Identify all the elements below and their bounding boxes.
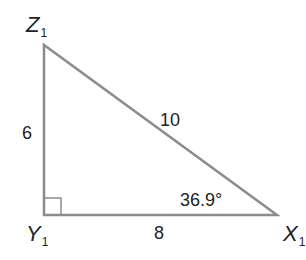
side-label-zx: 10 [160,111,180,129]
angle-label-x: 36.9° [180,191,222,209]
side-label-yx: 8 [154,224,164,242]
vertex-z-letter: Z [26,12,39,37]
vertex-y-subscript: 1 [42,235,49,249]
right-angle-marker [44,198,61,215]
vertex-x-subscript: 1 [299,235,306,249]
vertex-label-y: Y1 [26,223,48,248]
vertex-z-subscript: 1 [40,26,47,40]
vertex-label-z: Z1 [26,14,47,39]
triangle-outline [44,45,277,215]
side-label-zy: 6 [22,124,32,142]
vertex-label-x: X1 [283,223,305,248]
vertex-x-letter: X [283,221,298,246]
vertex-y-letter: Y [26,221,41,246]
